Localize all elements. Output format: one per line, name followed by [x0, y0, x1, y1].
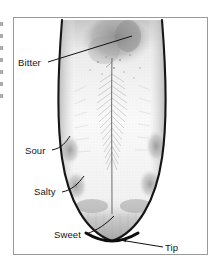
- figure-canvas: Bitter Sour Salty Sweet Tip: [0, 0, 224, 268]
- label-sweet: Sweet: [54, 230, 81, 240]
- tongue-illustration: [0, 0, 224, 268]
- leader-tip: [120, 240, 163, 247]
- label-salty: Salty: [34, 187, 56, 197]
- label-sour: Sour: [25, 146, 45, 156]
- label-bitter: Bitter: [18, 58, 41, 68]
- label-tip: Tip: [165, 243, 178, 253]
